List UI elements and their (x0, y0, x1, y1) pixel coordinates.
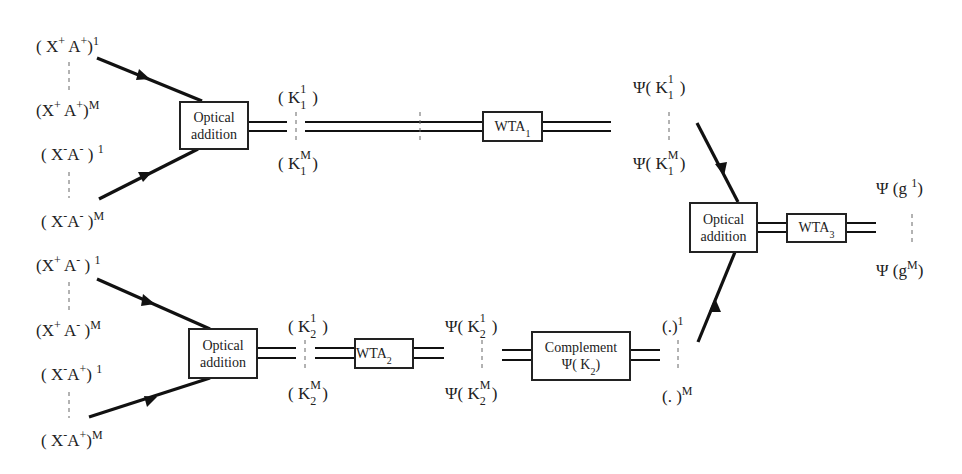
output-psi-g-last: Ψ (gM) (876, 262, 923, 279)
input-label-xneg-apos-M: ( X-A+)M (41, 432, 103, 449)
input-label-xpos-apos-1: ( X+ A+)1 (36, 38, 99, 55)
signal-k1-first: ( K11) (278, 89, 318, 106)
input-label-xneg-aneg-M: ( X-A- )M (41, 213, 104, 230)
arrow-to-right-optical-top (697, 123, 738, 202)
signal-k2-last: ( KM2) (288, 385, 328, 402)
input-label-xpos-aneg-1: (X+ A- ) 1 (36, 257, 101, 274)
signal-dot-last: (. )M (662, 388, 693, 405)
input-label-xpos-apos-M: (X+ A+)M (36, 102, 99, 119)
signal-psi-k2-last: Ψ( KM2) (445, 385, 497, 402)
output-psi-g-first: Ψ (g 1) (876, 180, 923, 197)
wta3-box: WTA3 (786, 213, 847, 243)
optical-addition-box-bottom: Opticaladdition (188, 328, 258, 379)
input-label-xneg-aneg-1: ( X-A- ) 1 (41, 146, 104, 163)
optical-addition-box-right: Opticaladdition (689, 202, 758, 253)
arrow-input-top-1 (97, 58, 202, 101)
input-label-xneg-apos-1: ( X-A+) 1 (41, 366, 102, 383)
signal-psi-k1-first: Ψ( K11) (633, 79, 685, 96)
optical-addition-box-top: Opticaladdition (179, 101, 249, 150)
arrowhead-icon (136, 69, 150, 80)
signal-k2-first: ( K12) (288, 318, 328, 335)
signal-psi-k1-last: Ψ( KM1) (633, 155, 685, 172)
wta1-box: WTA1 (482, 111, 543, 142)
arrow-to-right-optical-bottom (698, 252, 735, 342)
arrowhead-icon (709, 298, 721, 312)
wta2-box: WTA2 (354, 338, 414, 369)
complement-box: Complement Ψ( K2) (531, 331, 631, 381)
input-label-xpos-aneg-M: (X+ A- )M (36, 322, 101, 339)
arrowhead-icon (141, 294, 155, 306)
signal-psi-k2-first: Ψ( K12) (445, 318, 497, 335)
signal-dot-first: (.)1 (662, 318, 684, 335)
arrowhead-icon (144, 396, 157, 407)
signal-k1-last: ( KM1) (278, 155, 318, 172)
